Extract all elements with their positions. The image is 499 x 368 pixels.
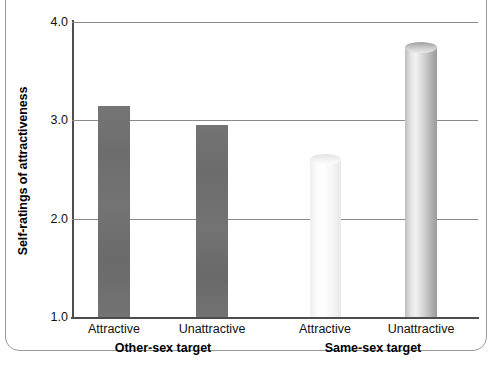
y-tick-label-1: 1.0 xyxy=(28,310,68,324)
bar-cap xyxy=(405,42,437,53)
x-label-same-sex-attractive: Attractive xyxy=(299,322,351,336)
bar-other-sex-unattractive[interactable] xyxy=(196,125,228,317)
gridline-4 xyxy=(72,22,478,23)
x-label-other-sex-unattractive: Unattractive xyxy=(179,322,246,336)
plot-area xyxy=(72,22,478,317)
bar-cap xyxy=(310,154,341,165)
y-tick-label-4: 4.0 xyxy=(28,15,68,29)
bar-body xyxy=(405,47,437,317)
chart-figure: Self-ratings of attractiveness 4.0 3.0 2… xyxy=(0,0,499,368)
x-label-same-sex-unattractive: Unattractive xyxy=(388,322,455,336)
bar-same-sex-attractive[interactable] xyxy=(310,154,341,317)
group-label-same-sex: Same-sex target xyxy=(325,341,422,355)
bar-same-sex-unattractive[interactable] xyxy=(405,42,437,317)
group-label-other-sex: Other-sex target xyxy=(115,341,212,355)
bar-other-sex-attractive[interactable] xyxy=(98,106,130,317)
x-label-other-sex-attractive: Attractive xyxy=(88,322,140,336)
bar-body xyxy=(310,159,341,317)
y-tick-label-3: 3.0 xyxy=(28,113,68,127)
y-tick-label-2: 2.0 xyxy=(28,212,68,226)
x-axis-line xyxy=(71,317,479,319)
y-axis-tick-labels: 4.0 3.0 2.0 1.0 xyxy=(22,22,68,317)
